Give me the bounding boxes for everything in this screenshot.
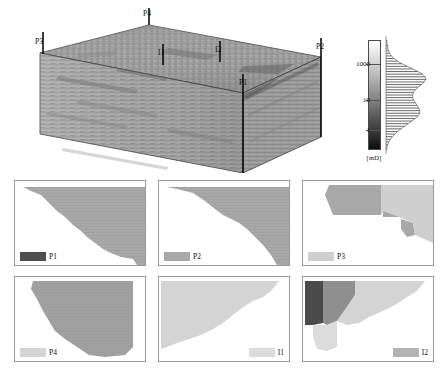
well-label-I2: I2: [215, 46, 222, 54]
panel-P3-swatch: [308, 252, 334, 261]
panel-I2-swatch: [393, 348, 419, 357]
panel-P3-label: P3: [337, 253, 345, 261]
reservoir-block-svg: [18, 8, 338, 173]
panel-P4-swatch: [20, 348, 46, 357]
panel-P4-region-0: [31, 281, 133, 357]
panel-P3-region-0: [325, 185, 381, 215]
panel-P2-legend: P2: [164, 252, 201, 261]
drainage-panel-grid: P1 P2 P3 P4: [0, 176, 442, 368]
panel-P4-legend: P4: [20, 348, 57, 357]
panel-P2[interactable]: P2: [158, 180, 290, 266]
well-label-P3: P3: [35, 38, 43, 46]
panel-P2-swatch: [164, 252, 190, 261]
panel-I2-region-3: [313, 321, 337, 351]
well-label-P4: P4: [143, 10, 151, 18]
panel-I2[interactable]: I2: [302, 276, 434, 362]
panel-P4[interactable]: P4: [14, 276, 146, 362]
colorbar-label-1: 1: [367, 127, 371, 134]
panel-P2-label: P2: [193, 253, 201, 261]
panel-P4-label: P4: [49, 349, 57, 357]
colorbar-label-10: 10: [363, 97, 370, 104]
colorbar-label-1000: 1000: [356, 61, 370, 68]
panel-P1[interactable]: P1: [14, 180, 146, 266]
colorbar-unit-label: [mD]: [361, 154, 387, 161]
panel-P3[interactable]: P3: [302, 180, 434, 266]
panel-I1-label: I1: [278, 349, 284, 357]
well-label-P1: P1: [239, 79, 247, 87]
figure-root: P4 P3 I1 I2 P2 P1 1000 10 1 [mD] P1: [0, 0, 442, 369]
panel-I1-region-0: [161, 281, 279, 349]
well-label-I1: I1: [158, 49, 165, 57]
panel-I2-label: I2: [422, 349, 428, 357]
panel-I2-legend: I2: [393, 348, 428, 357]
panel-I1[interactable]: I1: [158, 276, 290, 362]
panel-P1-label: P1: [49, 253, 57, 261]
panel-I2-region-0: [305, 281, 323, 325]
permeability-histogram: [384, 36, 430, 154]
panel-P1-swatch: [20, 252, 46, 261]
panel-I1-swatch: [249, 348, 275, 357]
colorbar-area: 1000 10 1 [mD]: [350, 32, 438, 172]
panel-P3-legend: P3: [308, 252, 345, 261]
panel-I1-legend: I1: [249, 348, 284, 357]
panel-P1-legend: P1: [20, 252, 57, 261]
reservoir-block-3d: P4 P3 I1 I2 P2 P1: [18, 8, 338, 173]
clipped-header-text: [108, 0, 348, 7]
well-label-P2: P2: [316, 43, 324, 51]
